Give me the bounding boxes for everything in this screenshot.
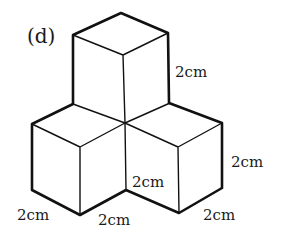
outline — [32, 13, 222, 215]
dimension-label-right: 2cm — [231, 153, 263, 171]
dimension-label-bottom-right: 2cm — [203, 206, 235, 224]
dimension-label-middle: 2cm — [132, 173, 164, 191]
dimension-label-bottom-left: 2cm — [17, 206, 49, 224]
part-label: (d) — [27, 24, 55, 48]
three-cubes-diagram: (d) 2cm 2cm 2cm 2cm 2cm 2cm — [0, 0, 288, 239]
dimension-label-top-right: 2cm — [175, 63, 207, 81]
dimension-label-bottom-middle: 2cm — [98, 211, 130, 229]
